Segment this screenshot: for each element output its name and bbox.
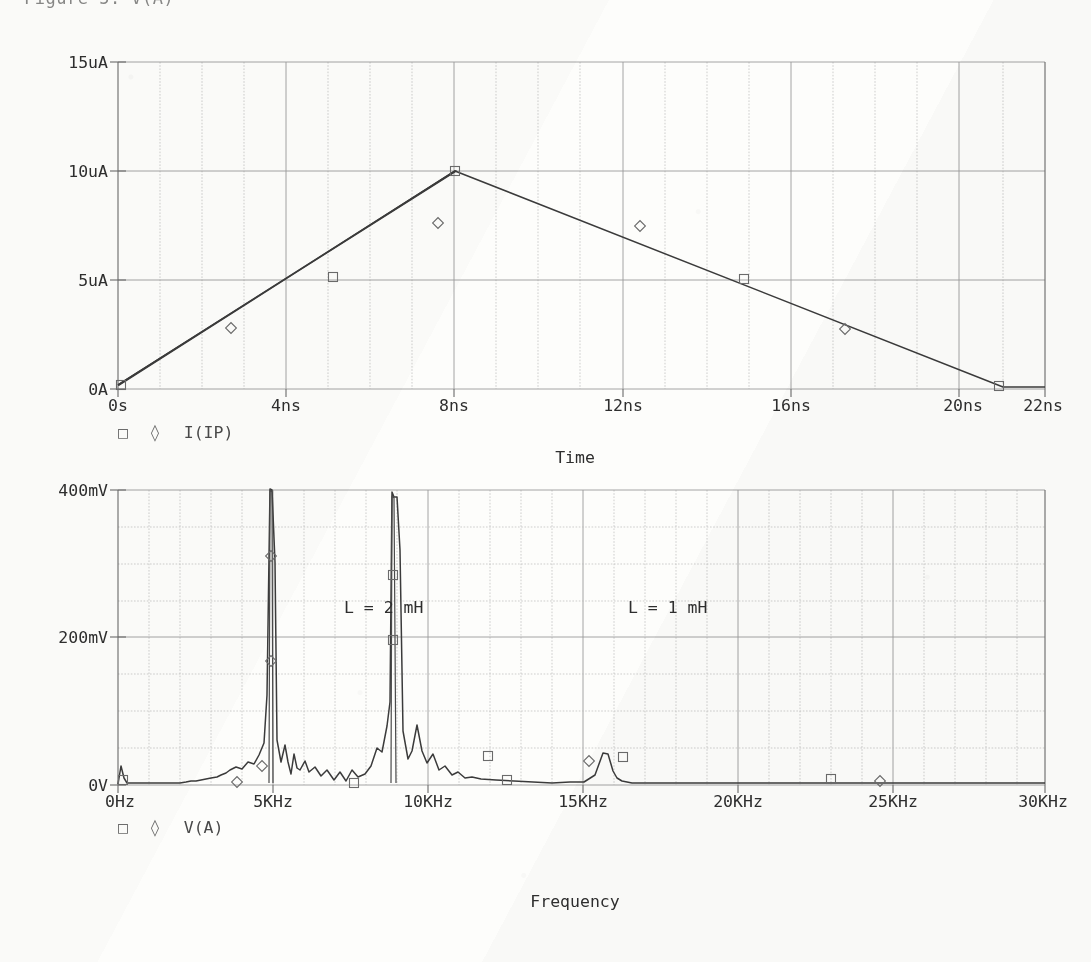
fft-xtick-25KHz: 25KHz <box>868 792 918 811</box>
fft-annotation-L2mH: L = 2 mH <box>344 598 423 617</box>
legend-square-icon: □ <box>118 423 128 442</box>
fft-plot: 400mV 200mV 0V <box>0 470 1091 962</box>
fft-legend-label: V(A) <box>184 818 224 837</box>
transient-xtick-22ns: 22ns <box>1023 396 1063 415</box>
fft-annotation-L1mH: L = 1 mH <box>628 598 707 617</box>
fft-plot-canvas <box>0 470 1091 820</box>
fft-diamond-markers <box>232 551 886 788</box>
legend-diamond-icon: ◊ <box>150 423 160 442</box>
fft-xaxis-title: Frequency <box>530 892 619 911</box>
fft-xtick-20KHz: 20KHz <box>713 792 763 811</box>
legend-square-icon: □ <box>118 818 128 837</box>
fft-square-markers <box>119 571 836 788</box>
fft-xtick-5KHz: 5KHz <box>253 792 293 811</box>
transient-xtick-16ns: 16ns <box>771 396 811 415</box>
transient-xtick-20ns: 20ns <box>943 396 983 415</box>
transient-legend[interactable]: □ ◊ I(IP) <box>118 423 233 442</box>
fft-legend[interactable]: □ ◊ V(A) <box>118 818 224 837</box>
fft-trace <box>118 489 1045 784</box>
transient-plot-canvas <box>0 0 1091 420</box>
transient-xaxis-title: Time <box>555 448 595 467</box>
fft-xtick-30KHz: 30KHz <box>1018 792 1068 811</box>
fft-xtick-10KHz: 10KHz <box>403 792 453 811</box>
transient-legend-label: I(IP) <box>184 423 234 442</box>
transient-xtick-4ns: 4ns <box>271 396 301 415</box>
transient-xtick-12ns: 12ns <box>603 396 643 415</box>
transient-plot: 15uA 10uA 5uA 0A <box>0 0 1091 470</box>
transient-xtick-0s: 0s <box>108 396 128 415</box>
transient-xtick-8ns: 8ns <box>439 396 469 415</box>
legend-diamond-icon: ◊ <box>150 818 160 837</box>
fft-xtick-0Hz: 0Hz <box>105 792 135 811</box>
transient-square-markers <box>117 167 1004 391</box>
fft-xtick-15KHz: 15KHz <box>558 792 608 811</box>
